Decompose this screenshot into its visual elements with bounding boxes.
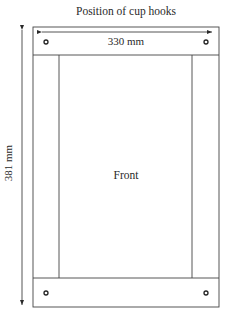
outer-frame bbox=[33, 27, 219, 307]
front-label: Front bbox=[114, 169, 140, 181]
height-label: 381 mm bbox=[2, 144, 14, 181]
cup-hook-bottom-left-icon bbox=[44, 291, 48, 295]
width-label: 330 mm bbox=[108, 35, 145, 47]
cabinet-diagram: Position of cup hooks 330 mm 381 mm Fron… bbox=[0, 0, 228, 323]
cup-hook-top-left-icon bbox=[44, 40, 48, 44]
cup-hook-bottom-right-icon bbox=[204, 291, 208, 295]
diagram-title: Position of cup hooks bbox=[76, 5, 177, 18]
cup-hook-top-right-icon bbox=[204, 40, 208, 44]
